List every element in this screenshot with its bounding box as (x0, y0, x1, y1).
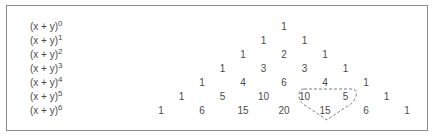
highlight-outline (0, 0, 444, 140)
